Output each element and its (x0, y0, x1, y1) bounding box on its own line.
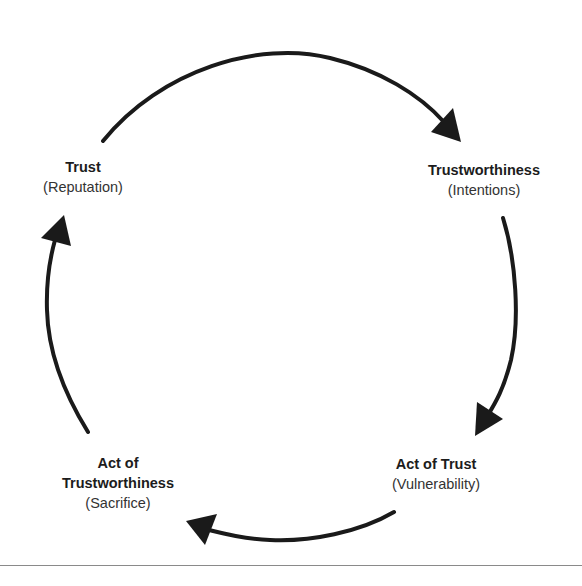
node-subtitle: (Vulnerability) (392, 474, 480, 494)
arrowhead-icon (41, 215, 71, 246)
node-title-line2: Trustworthiness (62, 473, 174, 493)
node-title: Trust (43, 157, 123, 177)
arrow-act-of-trust-to-act-of-trustworthiness (186, 512, 394, 545)
arrow-trustworthiness-to-act-of-trust (475, 218, 516, 436)
node-act-of-trustworthiness: Act of Trustworthiness (Sacrifice) (62, 453, 174, 513)
node-trustworthiness: Trustworthiness (Intentions) (428, 160, 540, 200)
node-act-of-trust: Act of Trust (Vulnerability) (392, 454, 480, 494)
node-subtitle: (Intentions) (428, 180, 540, 200)
arc-right (485, 218, 516, 420)
node-title: Trustworthiness (428, 160, 540, 180)
arc-bottom (205, 512, 394, 540)
arrowhead-icon (475, 402, 503, 436)
node-subtitle: (Sacrifice) (62, 493, 174, 513)
arrow-trust-to-trustworthiness (103, 53, 461, 142)
node-title: Act of Trust (392, 454, 480, 474)
node-trust: Trust (Reputation) (43, 157, 123, 197)
arc-top (103, 53, 444, 141)
arc-left (47, 240, 88, 432)
node-title-line1: Act of (62, 453, 174, 473)
node-subtitle: (Reputation) (43, 177, 123, 197)
separator-line (0, 565, 582, 566)
trust-cycle-diagram: Trust (Reputation) Trustworthiness (Inte… (0, 0, 582, 586)
arrow-act-of-trustworthiness-to-trust (41, 215, 88, 432)
